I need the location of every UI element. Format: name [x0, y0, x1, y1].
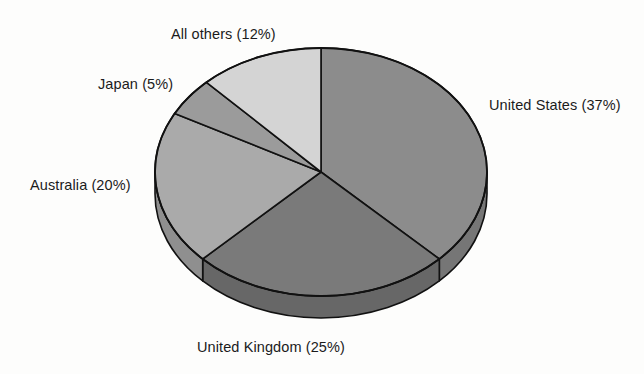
slice-label-united-kingdom: United Kingdom (25%): [197, 339, 345, 355]
slice-label-all-others: All others (12%): [171, 26, 276, 42]
slice-label-australia: Australia (20%): [30, 177, 131, 193]
slice-label-united-states: United States (37%): [489, 97, 621, 113]
pie-chart: All others (12%) Japan (5%) Australia (2…: [0, 0, 644, 374]
slice-label-japan: Japan (5%): [98, 76, 173, 92]
